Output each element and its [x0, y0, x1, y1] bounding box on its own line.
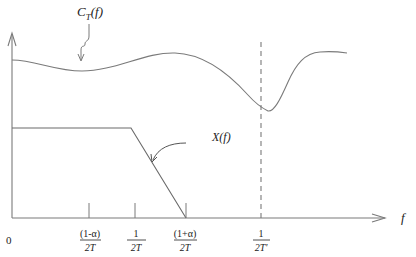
spectrum-label: X(f)	[211, 130, 231, 144]
tick-label-2: 1 2T	[127, 228, 146, 253]
x-axis: f 0	[6, 210, 407, 246]
spectrum-pointer-icon	[153, 143, 186, 160]
tick-label-4: 1 2T'	[253, 228, 270, 253]
svg-text:(1-α): (1-α)	[80, 228, 100, 240]
pointer-squiggle-icon	[81, 24, 89, 60]
tick-marks	[89, 203, 186, 218]
x-axis-label: f	[401, 210, 407, 225]
svg-text:1: 1	[259, 228, 264, 239]
channel-label: CT(f)	[77, 4, 103, 22]
channel-label-group: CT(f)	[77, 4, 103, 61]
spectrum-curve	[12, 128, 186, 218]
origin-label: 0	[6, 234, 12, 246]
y-axis	[8, 33, 16, 218]
svg-text:2T: 2T	[85, 242, 97, 253]
svg-text:1: 1	[134, 228, 139, 239]
diagram: f 0 CT(f) X(f) (1-α) 2T 1 2T	[0, 0, 416, 257]
svg-text:(1+α): (1+α)	[174, 228, 197, 240]
svg-text:2T: 2T	[131, 242, 143, 253]
tick-label-3: (1+α) 2T	[174, 228, 197, 253]
spectrum-label-group: X(f)	[151, 130, 231, 162]
svg-text:2T: 2T	[180, 242, 192, 253]
svg-text:2T': 2T'	[255, 242, 269, 253]
tick-label-1: (1-α) 2T	[80, 228, 101, 253]
channel-response-curve	[12, 52, 347, 111]
